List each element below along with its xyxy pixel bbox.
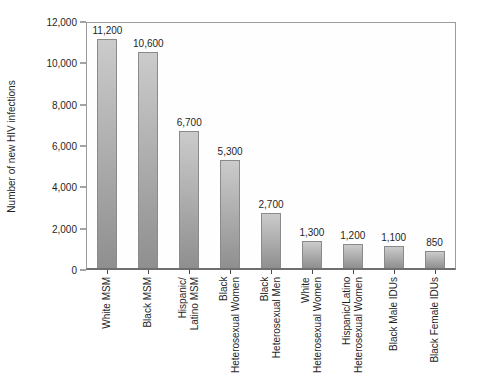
bar-column: 2,700	[251, 23, 292, 268]
bar-value-label: 850	[426, 237, 443, 248]
bar-value-label: 6,700	[177, 117, 202, 128]
bar	[343, 244, 363, 269]
bar-column: 1,100	[373, 23, 414, 268]
x-category-label: Black MSM	[142, 277, 154, 328]
bar	[261, 213, 281, 268]
x-label-cell: White Heterosexual Women	[292, 270, 333, 382]
y-tick: 10,000	[46, 58, 86, 69]
x-tick-mark	[353, 270, 354, 274]
y-tick-label: 4,000	[52, 182, 77, 193]
bar-chart-figure: Number of new HIV infections 02,0004,000…	[0, 0, 479, 382]
x-tick-mark	[394, 270, 395, 274]
bar	[179, 131, 199, 268]
x-category-label: White MSM	[101, 277, 113, 329]
bar	[425, 251, 445, 268]
x-tick-mark	[312, 270, 313, 274]
y-tick: 0	[71, 265, 86, 276]
bar-value-label: 10,600	[133, 38, 164, 49]
x-label-cell: Hispanic/Latino Heterosexual Women	[333, 270, 374, 382]
bar-column: 1,200	[332, 23, 373, 268]
bar	[384, 246, 404, 268]
x-tick-mark	[148, 270, 149, 274]
y-tick-label: 6,000	[52, 141, 77, 152]
bar-column: 10,600	[128, 23, 169, 268]
bar-value-label: 11,200	[93, 25, 123, 36]
y-tick-label: 10,000	[46, 58, 77, 69]
bar-column: 5,300	[210, 23, 251, 268]
x-axis-labels: White MSMBlack MSMHispanic/ Latino MSMBl…	[86, 270, 456, 382]
x-tick-mark	[435, 270, 436, 274]
plot-area: 11,20010,6006,7005,3002,7001,3001,2001,1…	[86, 22, 456, 270]
x-label-cell: Black Heterosexual Women	[209, 270, 250, 382]
x-tick-mark	[271, 270, 272, 274]
bar-column: 1,300	[291, 23, 332, 268]
x-label-cell: Black Heterosexual Men	[250, 270, 291, 382]
bar-column: 6,700	[169, 23, 210, 268]
x-category-label: Black Female IDUs	[429, 277, 441, 363]
x-category-label: Hispanic/Latino Heterosexual Women	[341, 277, 365, 373]
y-tick: 12,000	[46, 17, 86, 28]
x-label-cell: Black Male IDUs	[374, 270, 415, 382]
bar	[138, 52, 158, 268]
y-tick-label: 12,000	[46, 17, 77, 28]
x-tick-mark	[107, 270, 108, 274]
y-tick: 2,000	[52, 223, 86, 234]
x-label-cell: White MSM	[86, 270, 127, 382]
bar	[302, 241, 322, 268]
x-label-cell: Black Female IDUs	[415, 270, 456, 382]
y-tick: 8,000	[52, 99, 86, 110]
bar-value-label: 1,200	[340, 230, 365, 241]
corner-spacer	[0, 270, 86, 382]
bar-value-label: 2,700	[258, 199, 283, 210]
bar	[97, 39, 117, 268]
bar-value-label: 1,100	[381, 232, 406, 243]
x-tick-mark	[189, 270, 190, 274]
y-tick-label: 8,000	[52, 99, 77, 110]
x-category-label: White Heterosexual Women	[300, 277, 324, 373]
bar	[220, 160, 240, 268]
x-category-label: Black Heterosexual Men	[259, 277, 283, 358]
x-tick-mark	[230, 270, 231, 274]
bar-value-label: 1,300	[299, 227, 324, 238]
y-tick-label: 2,000	[52, 223, 77, 234]
y-tick: 6,000	[52, 141, 86, 152]
x-label-cell: Hispanic/ Latino MSM	[168, 270, 209, 382]
y-axis: 02,0004,0006,0008,00010,00012,000	[0, 22, 86, 270]
bar-value-label: 5,300	[218, 146, 243, 157]
y-tick-label: 0	[71, 265, 77, 276]
chart-grid: 02,0004,0006,0008,00010,00012,000 11,200…	[0, 22, 456, 382]
x-category-label: Black Heterosexual Women	[218, 277, 242, 373]
x-label-cell: Black MSM	[127, 270, 168, 382]
y-tick: 4,000	[52, 182, 86, 193]
x-category-label: Hispanic/ Latino MSM	[177, 277, 201, 330]
bar-column: 11,200	[87, 23, 128, 268]
bar-column: 850	[414, 23, 455, 268]
x-category-label: Black Male IDUs	[388, 277, 400, 351]
